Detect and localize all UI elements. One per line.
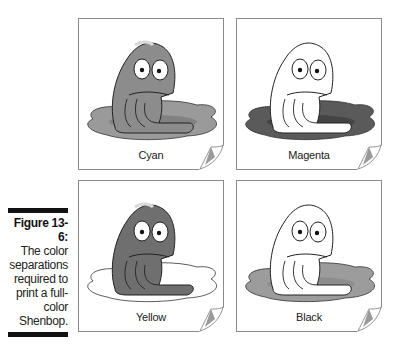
caption-line: The color [4,244,68,258]
caption-line: required to [4,272,68,286]
caption-line: print a full- [4,286,68,300]
caption-top-rule [8,208,68,213]
caption-line: color [4,300,68,314]
panel-magenta: Magenta [236,18,382,170]
caption-line: separations [4,258,68,272]
panel-yellow: Yellow [78,180,224,332]
figure-caption: Figure 13-6: The color separations requi… [4,208,68,337]
panel-label: Yellow [79,311,223,323]
panel-label: Black [237,311,381,323]
caption-line: Shenbop. [4,314,68,328]
caption-bottom-rule [8,332,68,337]
panel-label: Magenta [237,149,381,161]
panel-cyan: Cyan [78,18,224,170]
panel-black: Black [236,180,382,332]
figure-label: Figure 13-6: [4,216,68,244]
panel-label: Cyan [79,149,223,161]
